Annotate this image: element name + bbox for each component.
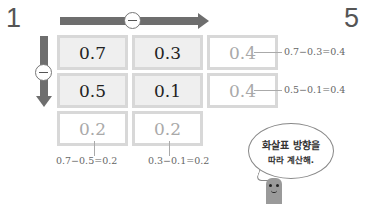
speech-line-1: 화살표 방향을	[249, 137, 333, 152]
connector-line	[254, 52, 282, 53]
col1-calculation: 0.7−0.5=0.2	[56, 155, 117, 166]
problem-number: 1	[6, 3, 21, 34]
col2-calculation: 0.3−0.1=0.2	[148, 155, 209, 166]
next-problem-number: 5	[344, 3, 359, 34]
row2-calculation: 0.5−0.1=0.4	[284, 84, 345, 95]
grid-cell: 0.3	[132, 35, 203, 70]
grid-cell: 0.7	[57, 35, 128, 70]
connector-line	[169, 141, 170, 156]
eye-icon	[276, 184, 279, 187]
minus-circle-icon-horizontal	[124, 12, 141, 29]
speech-bubble: 화살표 방향을 따라 계산해.	[248, 123, 334, 179]
answer-cell: 0.2	[132, 111, 203, 146]
grid-cell: 0.1	[132, 73, 203, 108]
arrow-right-icon	[198, 13, 209, 29]
grid-cell: 0.5	[57, 73, 128, 108]
smile-icon	[271, 189, 277, 193]
row1-calculation: 0.7−0.3=0.4	[284, 46, 345, 57]
arrow-down-icon	[36, 96, 52, 107]
answer-cell: 0.2	[57, 111, 128, 146]
mascot-character	[266, 178, 282, 204]
minus-circle-icon-vertical	[35, 64, 52, 81]
eye-icon	[269, 184, 272, 187]
connector-line	[94, 141, 95, 156]
speech-line-2: 따라 계산해.	[249, 153, 333, 165]
connector-line	[254, 90, 282, 91]
